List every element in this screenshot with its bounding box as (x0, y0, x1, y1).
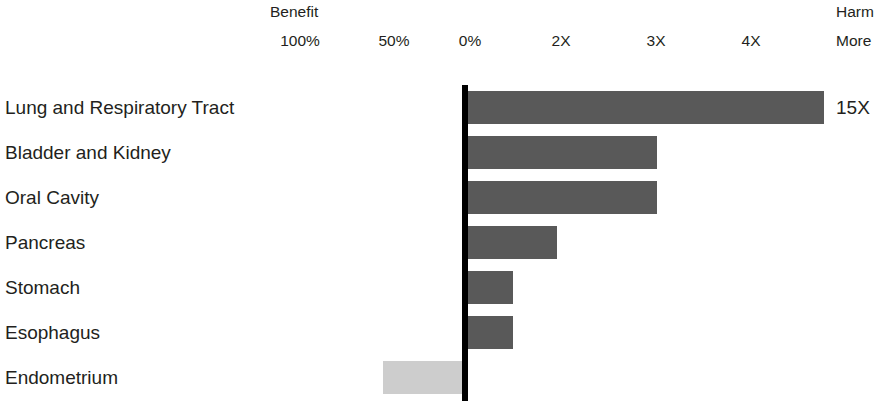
axis-tick-3: 2X (552, 31, 571, 51)
category-label: Oral Cavity (5, 175, 99, 220)
category-label: Pancreas (5, 220, 85, 265)
category-label: Endometrium (5, 355, 118, 400)
axis-tick-2: 0% (459, 31, 481, 51)
category-label: Stomach (5, 265, 80, 310)
category-label: Esophagus (5, 310, 100, 355)
chart-row: Oral Cavity (0, 175, 890, 220)
diverging-bar-chart: Benefit Harm More 100%50%0%2X3X4X Lung a… (0, 0, 890, 401)
bar-harm (468, 91, 824, 124)
bar-harm (468, 316, 513, 349)
more-axis-header: More (836, 31, 871, 51)
bar-harm (468, 271, 513, 304)
chart-row: Lung and Respiratory Tract15X (0, 85, 890, 130)
axis-tick-1: 50% (378, 31, 409, 51)
zero-axis-line (462, 85, 468, 401)
chart-row: Pancreas (0, 220, 890, 265)
bar-value-label: 15X (836, 85, 870, 130)
category-label: Lung and Respiratory Tract (5, 85, 234, 130)
bar-benefit (383, 361, 462, 394)
bar-harm (468, 181, 657, 214)
chart-row: Endometrium (0, 355, 890, 400)
category-label: Bladder and Kidney (5, 130, 171, 175)
bar-harm (468, 226, 557, 259)
chart-row: Bladder and Kidney (0, 130, 890, 175)
chart-row: Esophagus (0, 310, 890, 355)
chart-rows: Lung and Respiratory Tract15XBladder and… (0, 85, 890, 401)
axis-tick-4: 3X (647, 31, 666, 51)
chart-row: Stomach (0, 265, 890, 310)
axis-tick-5: 4X (742, 31, 761, 51)
harm-axis-header: Harm (836, 2, 874, 22)
bar-harm (468, 136, 657, 169)
axis-tick-0: 100% (280, 31, 320, 51)
benefit-axis-header: Benefit (270, 2, 318, 22)
